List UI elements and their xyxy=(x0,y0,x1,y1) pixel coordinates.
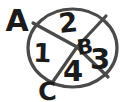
sector-number-3: 3 xyxy=(90,42,110,76)
outer-label-c: C xyxy=(37,76,57,102)
sector-number-4: 4 xyxy=(63,54,83,88)
outer-label-a: A xyxy=(5,3,29,38)
sector-number-2: 2 xyxy=(57,6,79,39)
sector-number-1: 1 xyxy=(33,38,52,69)
whiteboard-canvas: A21B34C xyxy=(0,0,127,102)
wheel-diagram: A21B34C xyxy=(0,0,127,102)
